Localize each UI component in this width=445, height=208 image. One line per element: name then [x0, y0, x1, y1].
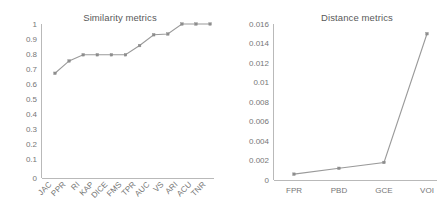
- data-point-marker: [426, 32, 429, 35]
- y-tick-label: 0.4: [26, 110, 38, 119]
- y-tick-label: 0.1: [26, 155, 38, 164]
- data-point-marker: [209, 23, 212, 26]
- data-point-marker: [181, 23, 184, 26]
- y-tick-label: 0.3: [26, 125, 38, 134]
- data-point-marker: [124, 54, 127, 57]
- series-line-similarity: [55, 24, 210, 73]
- distance-metrics-chart: 0.016 0.014 0.012 0.01 0.008 0.006 0.004…: [222, 0, 445, 208]
- figure-root: Similarity metrics 1 0.9 0.8 0.7 0.6 0.5…: [0, 0, 445, 208]
- y-tick-label: 0.014: [249, 39, 270, 48]
- series-line-distance: [294, 34, 427, 174]
- data-point-marker: [110, 54, 113, 57]
- y-tick-label: 0.7: [26, 65, 38, 74]
- data-point-marker: [338, 167, 341, 170]
- chart-panel-distance: Distance metrics 0.016 0.014 0.012 0.01 …: [222, 0, 445, 208]
- data-point-marker: [138, 44, 141, 47]
- x-tick-label: PBD: [331, 186, 348, 195]
- x-tick-label: VOI: [420, 186, 434, 195]
- y-tick-label: 0.8: [26, 50, 38, 59]
- series-markers-similarity: [54, 23, 212, 75]
- chart-title-similarity: Similarity metrics: [55, 12, 185, 23]
- data-point-marker: [195, 23, 198, 26]
- x-tick-labels-left: JAC PPR RI KAP DICE FMS TPR AUC VS ARI A…: [36, 180, 207, 200]
- x-tick-label: VS: [152, 180, 166, 194]
- series-markers-distance: [293, 32, 429, 175]
- y-tick-label: 0.012: [249, 59, 270, 68]
- y-tick-label: 1: [33, 20, 38, 29]
- y-tick-label: 0.006: [249, 117, 270, 126]
- chart-title-distance: Distance metrics: [292, 12, 422, 23]
- y-tick-label: 0.2: [26, 140, 38, 149]
- data-point-marker: [96, 54, 99, 57]
- y-tick-label: 0.01: [253, 78, 269, 87]
- x-tick-label: GCE: [375, 186, 392, 195]
- y-tick-labels-left: 1 0.9 0.8 0.7 0.6 0.5 0.4 0.3 0.2 0.1 0: [26, 20, 38, 183]
- data-point-marker: [54, 72, 57, 75]
- x-tick-label: FPR: [286, 186, 302, 195]
- x-tick-label: TNR: [189, 180, 207, 198]
- y-tick-label: 0.002: [249, 156, 270, 165]
- data-point-marker: [152, 33, 155, 36]
- y-tick-label: 0.9: [26, 35, 38, 44]
- data-point-marker: [293, 173, 296, 176]
- chart-panel-similarity: Similarity metrics 1 0.9 0.8 0.7 0.6 0.5…: [0, 0, 222, 208]
- y-tick-labels-right: 0.016 0.014 0.012 0.01 0.008 0.006 0.004…: [249, 20, 270, 185]
- x-tick-label: PPR: [49, 180, 67, 198]
- x-tick-label: AUC: [133, 180, 151, 198]
- data-point-marker: [68, 60, 71, 63]
- data-point-marker: [383, 161, 386, 164]
- y-tick-label: 0.5: [26, 95, 38, 104]
- y-tick-label: 0: [265, 176, 270, 185]
- y-tick-label: 0.016: [249, 20, 270, 29]
- data-point-marker: [167, 33, 170, 36]
- y-tick-label: 0.004: [249, 137, 270, 146]
- y-tick-label: 0.008: [249, 98, 270, 107]
- y-tick-label: 0.6: [26, 80, 38, 89]
- similarity-metrics-chart: 1 0.9 0.8 0.7 0.6 0.5 0.4 0.3 0.2 0.1 0 …: [0, 0, 222, 208]
- x-tick-labels-right: FPR PBD GCE VOI: [286, 186, 434, 195]
- data-point-marker: [82, 54, 85, 57]
- y-tick-label: 0: [33, 174, 38, 183]
